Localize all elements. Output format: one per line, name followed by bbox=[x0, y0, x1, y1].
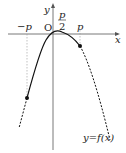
point-p bbox=[78, 44, 82, 48]
curve-solid bbox=[27, 31, 80, 98]
graph-canvas: x y O −p p 2 p y=f(x) bbox=[0, 0, 126, 153]
curve-dashed-right bbox=[80, 46, 110, 140]
origin-label: O bbox=[44, 22, 52, 33]
y-axis-label: y bbox=[43, 4, 50, 15]
point-neg-p bbox=[25, 96, 29, 100]
curve-dashed-left bbox=[19, 98, 27, 128]
x-axis-label: x bbox=[115, 34, 121, 45]
y-axis-arrow-icon bbox=[51, 3, 55, 8]
tick-half-p-den: 2 bbox=[59, 21, 65, 32]
curve-label: y=f(x) bbox=[82, 132, 114, 143]
tick-neg-p: −p bbox=[17, 21, 32, 32]
tick-p: p bbox=[77, 21, 84, 32]
tick-half-p-num: p bbox=[59, 9, 66, 20]
